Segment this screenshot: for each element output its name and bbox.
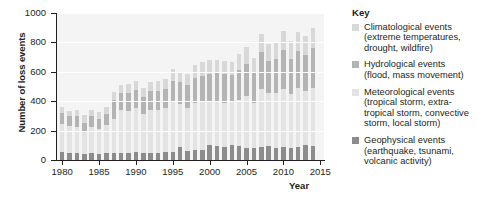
bar-segment	[126, 84, 131, 93]
bar-segment	[141, 153, 146, 160]
gridline	[57, 72, 324, 73]
bar-segment	[222, 103, 227, 147]
bar-segment	[252, 73, 257, 103]
y-tick-label: 0	[2, 154, 46, 165]
loss-events-stacked-bar-chart: Number of loss events 02004006008001000 …	[0, 0, 483, 217]
bar-segment	[104, 125, 109, 152]
x-axis-line	[56, 160, 325, 161]
legend-item-geophysical: Geophysical events(earthquake, tsunami, …	[352, 135, 480, 167]
bar-segment	[215, 101, 220, 146]
bar-segment	[156, 91, 161, 110]
bar-1981	[67, 111, 72, 160]
bar-segment	[222, 147, 227, 160]
x-tick-label: 1980	[42, 166, 82, 177]
legend-item-description: (earthquake, tsunami, volcanic activity)	[364, 146, 480, 167]
legend-item-label: Meteorological events	[364, 87, 480, 98]
bar-segment	[134, 90, 139, 108]
bar-segment	[60, 152, 65, 160]
bar-segment	[207, 145, 212, 160]
bar-segment	[215, 146, 220, 160]
bar-segment	[163, 89, 168, 109]
bar-segment	[296, 51, 301, 88]
bar-segment	[134, 81, 139, 90]
bar-segment	[171, 69, 176, 81]
gridline	[57, 101, 324, 102]
bar-segment	[141, 88, 146, 97]
bar-1991	[141, 88, 146, 160]
bar-segment	[259, 89, 264, 147]
bar-segment	[67, 153, 72, 160]
bar-segment	[200, 101, 205, 150]
y-tick	[51, 13, 57, 14]
bar-1988	[119, 85, 124, 160]
bar-2007	[259, 34, 264, 160]
y-tick	[51, 131, 57, 132]
bar-segment	[274, 59, 279, 93]
bar-1984	[89, 110, 94, 160]
bar-segment	[311, 48, 316, 89]
bar-2006	[252, 58, 257, 160]
y-axis-line	[56, 13, 57, 161]
bar-segment	[311, 88, 316, 146]
bar-segment	[244, 47, 249, 63]
bar-segment	[178, 147, 183, 160]
bar-segment	[289, 59, 294, 94]
bar-segment	[185, 151, 190, 160]
bar-segment	[303, 91, 308, 145]
bar-segment	[230, 75, 235, 101]
bar-segment	[266, 146, 271, 160]
bar-segment	[266, 44, 271, 61]
bar-segment	[89, 153, 94, 160]
bar-segment	[148, 82, 153, 91]
bar-segment	[244, 96, 249, 148]
bar-1993	[156, 81, 161, 160]
x-tick	[247, 161, 248, 165]
legend-item-meteorological: Meteorological events(tropical storm, ex…	[352, 87, 480, 129]
bar-segment	[163, 79, 168, 89]
x-tick	[62, 161, 63, 165]
bar-segment	[119, 153, 124, 160]
x-tick-label: 1985	[79, 166, 119, 177]
bar-segment	[171, 81, 176, 102]
bar-segment	[89, 116, 94, 127]
bar-segment	[178, 72, 183, 83]
bar-2000	[207, 60, 212, 160]
x-tick	[320, 161, 321, 165]
bar-1996	[178, 72, 183, 160]
bar-segment	[296, 147, 301, 160]
bar-segment	[252, 58, 257, 72]
bar-segment	[281, 89, 286, 147]
bar-segment	[222, 74, 227, 102]
bar-segment	[207, 101, 212, 145]
legend-swatch-icon	[352, 89, 359, 96]
x-tick	[173, 161, 174, 165]
bar-segment	[259, 52, 264, 89]
legend-item-description: (flood, mass movement)	[364, 70, 480, 81]
bar-1990	[134, 81, 139, 160]
bar-segment	[244, 64, 249, 97]
bar-segment	[112, 100, 117, 119]
bar-segment	[126, 153, 131, 160]
bar-segment	[311, 146, 316, 160]
bar-segment	[60, 124, 65, 153]
y-tick-label: 600	[2, 66, 46, 77]
bar-segment	[281, 50, 286, 89]
bar-segment	[237, 54, 242, 69]
bar-1997	[185, 74, 190, 160]
legend-item-hydrological: Hydrological events(flood, mass movement…	[352, 59, 480, 80]
bar-segment	[289, 41, 294, 60]
x-tick	[136, 161, 137, 165]
bar-segment	[311, 28, 316, 48]
legend-swatch-icon	[352, 61, 359, 68]
bar-segment	[97, 129, 102, 154]
bar-segment	[82, 115, 87, 122]
bar-2004	[237, 54, 242, 160]
bar-segment	[119, 85, 124, 93]
bar-2014	[311, 28, 316, 160]
legend: Key Climatological events(extreme temper…	[352, 8, 480, 173]
legend-swatch-icon	[352, 137, 359, 144]
bar-segment	[252, 148, 257, 160]
bar-segment	[237, 146, 242, 160]
bar-1998	[193, 65, 198, 160]
x-tick-label: 2015	[300, 166, 340, 177]
